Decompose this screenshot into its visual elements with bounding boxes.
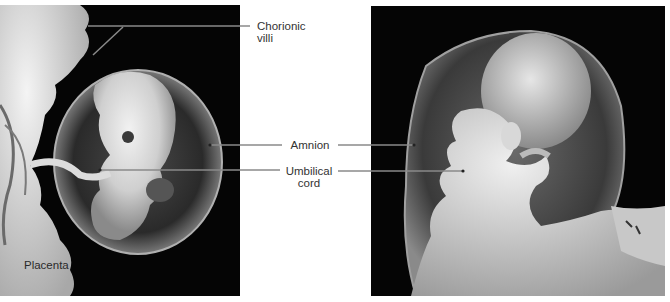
umbilical-cord-label: Umbilical cord [280,165,338,189]
embryo-illustration-left [0,5,240,296]
chorionic-villi-label-line1: Chorionic [257,20,306,32]
fetus-photo-right [371,6,665,296]
umbilical-cord-label-line1: Umbilical [280,165,338,177]
umbilical-cord-label-line2: cord [280,177,338,189]
chorionic-villi-label-line2: villi [257,32,306,44]
placenta-label: Placenta [24,259,69,271]
amnion-label: Amnion [284,139,336,151]
fetus-illustration-right [371,6,665,296]
chorionic-villi-label: Chorionic villi [257,20,306,44]
embryo-photo-left [0,5,240,296]
